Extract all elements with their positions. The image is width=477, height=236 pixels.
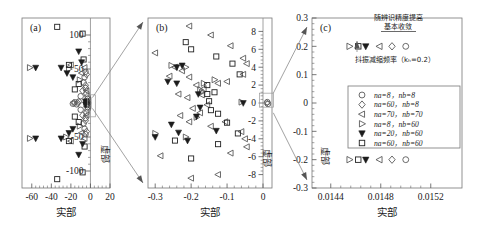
data-point xyxy=(33,65,39,71)
data-point xyxy=(188,175,194,181)
data-point xyxy=(33,136,39,142)
y-tick-label: 0 xyxy=(251,98,256,108)
y-tick-label: -50 xyxy=(71,132,84,142)
figure-root: -60-40-2002010050-50-100(a)实部虚部-0.3-0.2-… xyxy=(0,0,477,236)
x-tick-label: -0.1 xyxy=(220,192,235,202)
data-point xyxy=(208,108,213,113)
panel-c-annotations: 随辨识精度提高基本收敛抖振减缩频率（kₕ=0.2） xyxy=(355,13,435,64)
y-tick-label: -6 xyxy=(248,152,256,162)
connector-b-to-c-bottom xyxy=(273,113,307,180)
legend-item-label: na=60，nb=8 xyxy=(374,100,419,109)
data-point xyxy=(230,61,235,66)
y-tick-label: 0.2 xyxy=(296,42,308,52)
data-point xyxy=(177,113,183,119)
data-point xyxy=(240,55,246,61)
data-point xyxy=(186,74,192,80)
data-point xyxy=(240,71,246,77)
data-point xyxy=(64,71,70,77)
x-tick-label: -0.2 xyxy=(184,192,199,202)
data-point xyxy=(244,61,250,67)
data-point xyxy=(174,65,180,71)
data-point xyxy=(72,114,77,119)
legend-item-label: na=8，nb=60 xyxy=(374,120,419,129)
x-tick-label: 0.0148 xyxy=(368,192,394,202)
data-point xyxy=(165,79,171,85)
data-point xyxy=(376,43,382,49)
data-point xyxy=(76,49,82,55)
panel-label: (c) xyxy=(320,22,331,34)
y-tick-label: 8 xyxy=(251,27,256,37)
y-tick-label: -4 xyxy=(248,134,256,144)
y-tick-label: -2 xyxy=(248,116,256,126)
data-point xyxy=(213,128,219,134)
data-point xyxy=(157,153,163,159)
data-point xyxy=(244,144,250,150)
x-tick-label: -0.3 xyxy=(148,192,163,202)
data-point xyxy=(189,156,194,161)
data-point xyxy=(58,65,64,71)
y-tick-label: 0.3 xyxy=(296,13,308,23)
y-tick-label: 4 xyxy=(251,63,256,73)
y-tick-label: 0 xyxy=(303,98,308,108)
y-tick-label: 100 xyxy=(69,30,84,40)
panel-a: -60-40-2002010050-50-100(a)实部虚部 xyxy=(22,18,115,218)
data-point xyxy=(376,156,382,162)
series-triangle-left xyxy=(152,23,249,181)
x-tick-label: 0.0152 xyxy=(418,192,444,202)
data-point xyxy=(389,43,395,50)
series-triangle-right xyxy=(153,62,245,140)
data-point xyxy=(356,157,361,162)
data-point xyxy=(76,152,82,158)
figure-canvas: -60-40-2002010050-50-100(a)实部虚部-0.3-0.2-… xyxy=(0,0,477,236)
data-point xyxy=(238,129,244,135)
legend-item-label: na=8，nb=8 xyxy=(374,91,415,100)
data-point xyxy=(224,79,230,85)
data-point xyxy=(186,23,192,29)
data-point xyxy=(175,91,181,97)
data-point xyxy=(70,75,76,81)
y-tick-label: 6 xyxy=(251,45,256,55)
panel-a-points xyxy=(27,24,90,181)
y-tick-label: -0.3 xyxy=(293,183,308,193)
x-tick-label: -60 xyxy=(25,192,38,202)
x-tick-label: -20 xyxy=(65,192,78,202)
x-tick-label: 0.0144 xyxy=(318,192,344,202)
y-tick-label: 2 xyxy=(251,80,256,90)
legend-item-label: na=60，nb=60 xyxy=(374,139,423,148)
y-axis-title: 虚部 xyxy=(320,147,331,165)
data-point xyxy=(216,142,221,147)
panel-label: (a) xyxy=(30,22,41,34)
x-axis-title: 实部 xyxy=(56,206,76,218)
data-point xyxy=(185,138,191,144)
x-axis-title: 实部 xyxy=(377,206,397,218)
y-axis-title: 虚部 xyxy=(262,149,273,167)
y-axis-title: 虚部 xyxy=(100,145,111,163)
annotation-damping-frequency: 抖振减缩频率（kₕ=0.2） xyxy=(355,55,435,64)
x-tick-label: 0 xyxy=(261,192,266,202)
data-point xyxy=(172,138,177,143)
connector-a-to-b-top xyxy=(92,22,143,98)
data-point xyxy=(214,54,219,59)
annotation-pointer-arrow xyxy=(354,41,360,52)
y-tick-label: 0.1 xyxy=(296,70,308,80)
data-point xyxy=(189,47,194,52)
data-point xyxy=(242,136,248,142)
data-point xyxy=(168,122,174,128)
legend: na=8，nb=8na=60，nb=8na=70，nb=70na=8，nb=60… xyxy=(348,86,460,148)
data-point xyxy=(347,156,353,162)
panel-frame xyxy=(22,18,110,188)
series-triangle-down-filled xyxy=(152,63,246,144)
data-point xyxy=(363,157,369,163)
data-point xyxy=(55,24,60,29)
data-point xyxy=(403,157,409,163)
data-point xyxy=(227,43,233,49)
data-point xyxy=(389,156,395,163)
data-point xyxy=(27,135,33,141)
data-point xyxy=(184,95,190,101)
y-tick-label: -0.1 xyxy=(293,127,308,137)
legend-item-label: na=20，nb=60 xyxy=(374,129,423,138)
data-point xyxy=(215,172,221,178)
x-tick-label: 0 xyxy=(88,192,93,202)
annotation-converge-line1: 随辨识精度提高 xyxy=(374,13,423,22)
data-point xyxy=(174,81,180,87)
